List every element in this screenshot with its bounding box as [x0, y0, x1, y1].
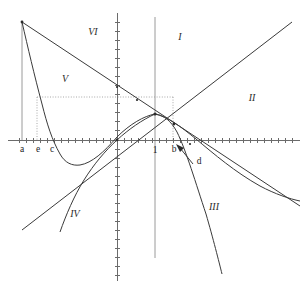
- dot-below-axis-right: [189, 143, 191, 145]
- axis-label-a: a: [20, 144, 25, 154]
- intersection-dots: [21, 21, 191, 145]
- region-label-iv: IV: [69, 208, 81, 219]
- dot-upper-left-origin: [21, 21, 24, 24]
- axis-label-one: 1: [153, 145, 158, 155]
- math-plot-canvas: a e c 1 b d I II III IV V VI: [0, 0, 304, 287]
- region-label-ii: II: [248, 92, 256, 103]
- axis-label-b: b: [172, 144, 177, 154]
- descending-straight-line: [22, 22, 300, 206]
- arrow-shaft-d: [180, 148, 193, 164]
- dot-on-level-line: [136, 99, 138, 101]
- dot-origin-intersection: [116, 139, 119, 142]
- dot-at-b: [173, 123, 176, 126]
- straight-lines: [22, 22, 300, 230]
- axis-label-c: c: [50, 144, 54, 154]
- region-label-v: V: [62, 73, 70, 84]
- dot-on-descending-line: [116, 86, 118, 88]
- region-label-vi: VI: [88, 26, 98, 37]
- guide-lines: [22, 17, 174, 258]
- dot-peak-at-one: [153, 112, 156, 115]
- figure-root: a e c 1 b d I II III IV V VI: [0, 0, 304, 287]
- region-labels: I II III IV V VI: [62, 26, 256, 219]
- axis-label-d: d: [197, 156, 202, 166]
- axis-label-e: e: [36, 144, 40, 154]
- ascending-straight-line: [22, 22, 292, 230]
- axis-point-labels: a e c 1 b d: [20, 144, 202, 166]
- region-label-iii: III: [208, 201, 220, 212]
- region-label-i: I: [177, 31, 182, 42]
- annotation-arrow-d: [176, 144, 193, 164]
- curves: [22, 22, 300, 274]
